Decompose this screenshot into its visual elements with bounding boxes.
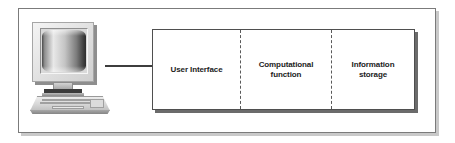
panel-computational-function: Computational function bbox=[240, 30, 331, 109]
panel-computational-function-label-line1: Computational bbox=[259, 60, 314, 70]
connector-line bbox=[105, 65, 153, 67]
diagram-canvas: User Interface Computational function In… bbox=[0, 0, 455, 143]
panel-user-interface: User Interface bbox=[153, 30, 240, 109]
keyboard-icon bbox=[30, 96, 110, 115]
desktop-computer-illustration bbox=[30, 20, 110, 115]
monitor-screen bbox=[42, 30, 86, 72]
crt-monitor-icon bbox=[32, 22, 94, 82]
three-tier-panel-box: User Interface Computational function In… bbox=[152, 29, 415, 110]
panel-user-interface-label: User Interface bbox=[171, 65, 223, 75]
keyboard-spacebar bbox=[52, 106, 84, 109]
keyboard-numpad bbox=[90, 99, 104, 108]
panel-information-storage: Information storage bbox=[331, 30, 414, 109]
panel-information-storage-label-line1: Information bbox=[352, 60, 395, 70]
keyboard-front-edge bbox=[30, 110, 110, 114]
panel-information-storage-label-line2: storage bbox=[352, 70, 395, 80]
panel-computational-function-label-line2: function bbox=[259, 70, 314, 80]
